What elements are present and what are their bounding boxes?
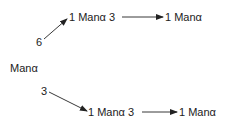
top-link-label: 6: [36, 36, 42, 48]
arrow-6-link: [44, 19, 67, 39]
root-node: Manα: [10, 62, 38, 74]
arrow-3-link: [49, 92, 87, 111]
top-node-1: 1 Manα 3: [69, 11, 115, 23]
bottom-node-2: 1 Manα: [179, 106, 216, 118]
bottom-link-label: 3: [41, 85, 47, 97]
bottom-node-1: 1 Manα 3: [88, 106, 134, 118]
top-node-2: 1 Manα: [165, 11, 202, 23]
